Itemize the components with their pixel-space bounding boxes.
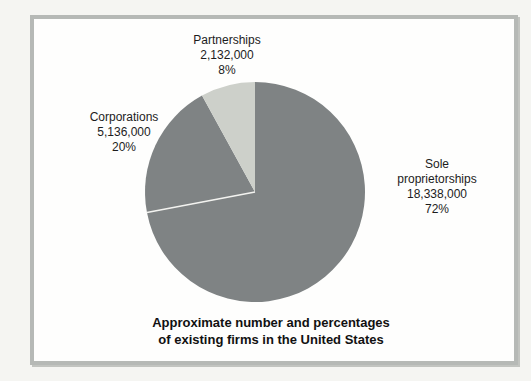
chart-title: Approximate number and percentages of ex… bbox=[110, 314, 432, 348]
slice-label-partnerships: Partnerships 2,132,000 8% bbox=[162, 33, 292, 78]
slice-count: 18,338,000 bbox=[387, 187, 487, 202]
slice-name: Partnerships bbox=[162, 33, 292, 48]
slice-percent: 8% bbox=[162, 63, 292, 78]
slice-label-corporations: Corporations 5,136,000 20% bbox=[59, 110, 189, 155]
chart-title-line-1: Approximate number and percentages bbox=[110, 314, 432, 331]
slice-name: Corporations bbox=[59, 110, 189, 125]
slice-percent: 20% bbox=[59, 140, 189, 155]
figure-canvas: Partnerships 2,132,000 8% Corporations 5… bbox=[0, 0, 531, 381]
slice-percent: 72% bbox=[387, 202, 487, 217]
slice-count: 2,132,000 bbox=[162, 48, 292, 63]
slice-label-sole-proprietorships: Sole proprietorships 18,338,000 72% bbox=[387, 157, 487, 217]
slice-name: Sole proprietorships bbox=[387, 157, 487, 187]
slice-count: 5,136,000 bbox=[59, 125, 189, 140]
chart-title-line-2: of existing firms in the United States bbox=[110, 331, 432, 348]
